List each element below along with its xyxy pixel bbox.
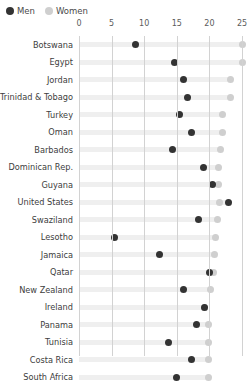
row-connector-band <box>79 77 231 82</box>
category-label: Barbados <box>34 146 73 154</box>
category-label: Trinidad & Tobago <box>0 93 73 101</box>
data-point-men <box>188 356 195 363</box>
data-point-men <box>156 251 163 258</box>
dot-plot-chart: 0510152025 BotswanaEgyptJordanTrinidad &… <box>0 20 247 356</box>
legend-label-women: Women <box>56 7 88 16</box>
chart-row: Trinidad & Tobago <box>79 89 242 107</box>
category-label: Turkey <box>46 111 73 119</box>
chart-row: Ireland <box>79 299 242 317</box>
chart-row: Turkey <box>79 106 242 124</box>
filled-circle-icon <box>45 7 53 15</box>
row-connector-band <box>79 165 219 170</box>
row-connector-band <box>79 200 228 205</box>
category-label: Jordan <box>47 76 73 84</box>
chart-row: Jordan <box>79 71 242 89</box>
data-point-women <box>212 234 219 241</box>
chart-row: Botswana <box>79 36 242 54</box>
x-gridline <box>177 36 178 356</box>
x-gridline <box>79 36 80 356</box>
chart-row: Barbados <box>79 141 242 159</box>
chart-row: Jamaica <box>79 246 242 264</box>
row-connector-band <box>79 95 231 100</box>
row-connector-band <box>79 147 220 152</box>
row-connector-band <box>79 375 208 380</box>
data-point-women <box>205 374 212 381</box>
x-tick-label: 25 <box>237 20 247 28</box>
data-point-women <box>215 164 222 171</box>
data-point-men <box>225 199 232 206</box>
category-label: South Africa <box>23 373 73 381</box>
legend-label-men: Men <box>17 7 35 16</box>
chart-legend: Men Women <box>6 3 88 19</box>
category-label: Egypt <box>49 58 73 66</box>
category-label: Lesotho <box>41 233 73 241</box>
category-label: Costa Rica <box>30 356 73 364</box>
chart-row: Dominican Rep. <box>79 159 242 177</box>
row-connector-band <box>79 130 222 135</box>
filled-circle-icon <box>6 7 14 15</box>
chart-row: New Zealand <box>79 281 242 299</box>
data-point-men <box>200 164 207 171</box>
x-tick-label: 20 <box>204 20 214 28</box>
data-point-women <box>205 356 212 363</box>
x-tick-label: 0 <box>76 20 81 28</box>
data-point-women <box>227 76 234 83</box>
chart-row: Egypt <box>79 54 242 72</box>
chart-row: Tunisia <box>79 334 242 352</box>
chart-row: South Africa <box>79 369 242 385</box>
chart-row: Swaziland <box>79 211 242 229</box>
row-connector-band <box>79 270 213 275</box>
category-label: Tunisia <box>45 338 73 346</box>
data-point-men <box>188 129 195 136</box>
category-label: Panama <box>40 321 73 329</box>
chart-row: United States <box>79 194 242 212</box>
data-point-women <box>215 181 222 188</box>
x-tick-label: 5 <box>109 20 114 28</box>
legend-item-men: Men <box>6 7 35 16</box>
x-gridline <box>112 36 113 356</box>
row-connector-band <box>79 252 215 257</box>
x-gridline <box>242 36 243 356</box>
category-label: Guyana <box>41 181 73 189</box>
row-connector-band <box>79 112 222 117</box>
category-label: New Zealand <box>19 286 73 294</box>
category-label: Oman <box>48 128 73 136</box>
data-point-men <box>173 374 180 381</box>
data-point-women <box>227 94 234 101</box>
x-tick-label: 15 <box>172 20 182 28</box>
data-point-women <box>211 251 218 258</box>
row-connector-band <box>79 42 242 47</box>
category-label: Swaziland <box>32 216 73 224</box>
category-label: Qatar <box>50 268 73 276</box>
chart-row: Guyana <box>79 176 242 194</box>
chart-row: Qatar <box>79 264 242 282</box>
category-label: Jamaica <box>41 251 73 259</box>
data-point-women <box>219 129 226 136</box>
data-point-women <box>219 111 226 118</box>
chart-row: Panama <box>79 316 242 334</box>
category-label: Dominican Rep. <box>9 163 74 171</box>
x-axis: 0510152025 <box>79 20 242 36</box>
data-point-women <box>214 216 221 223</box>
row-connector-band <box>79 182 219 187</box>
data-point-women <box>217 146 224 153</box>
x-tick-label: 10 <box>139 20 149 28</box>
x-gridline <box>209 36 210 356</box>
category-label: Botswana <box>33 41 73 49</box>
data-point-men <box>169 146 176 153</box>
row-connector-band <box>79 235 216 240</box>
data-point-men <box>132 41 139 48</box>
data-point-men <box>201 304 208 311</box>
chart-row: Oman <box>79 124 242 142</box>
legend-item-women: Women <box>45 7 88 16</box>
category-label: Ireland <box>45 303 73 311</box>
x-gridline <box>144 36 145 356</box>
row-connector-band <box>79 305 205 310</box>
row-connector-band <box>79 60 242 65</box>
data-point-women <box>216 199 223 206</box>
category-label: United States <box>18 198 73 206</box>
chart-row: Costa Rica <box>79 351 242 369</box>
plot-area: BotswanaEgyptJordanTrinidad & TobagoTurk… <box>79 36 242 356</box>
data-point-men <box>184 94 191 101</box>
data-point-women <box>207 286 214 293</box>
